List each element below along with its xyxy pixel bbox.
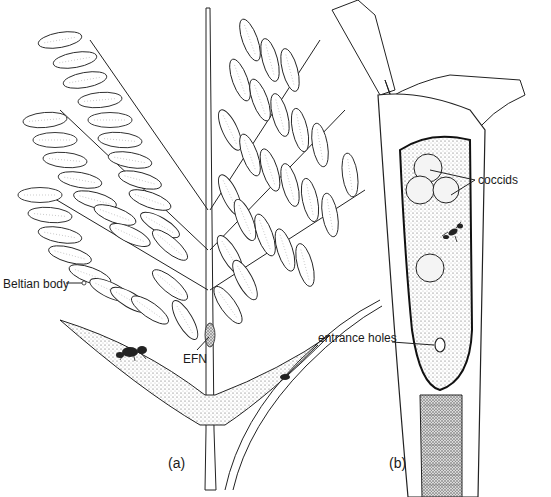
figure-illustration <box>0 0 551 497</box>
beltian-body-label: Beltian body <box>3 277 69 291</box>
efn-label: EFN <box>183 352 207 366</box>
panel-b-drawing <box>332 0 525 497</box>
panel-a-label: (a) <box>168 455 185 471</box>
panel-b-label: (b) <box>389 455 406 471</box>
entrance-holes-label: entrance holes <box>318 331 397 345</box>
coccids-label: coccids <box>478 173 518 187</box>
panel-a-drawing <box>18 8 382 490</box>
